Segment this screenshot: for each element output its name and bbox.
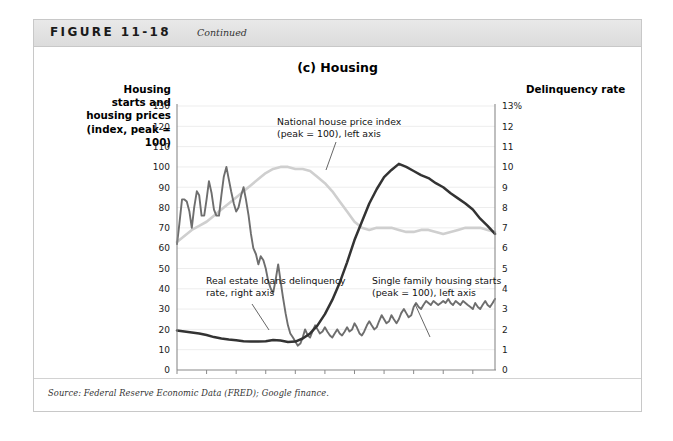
series-layer <box>177 164 495 346</box>
y2-axis-tick-label: 13% <box>502 101 522 111</box>
y-axis-tick-label: 30 <box>159 304 171 314</box>
y2-axis-tick-label: 11 <box>502 142 513 152</box>
series-line <box>177 167 495 242</box>
y2-axis-tick-label: 5 <box>502 264 508 274</box>
figure-card: FIGURE 11-18 Continued (c) Housing Housi… <box>33 19 642 412</box>
y-axis-tick-label: 20 <box>159 325 171 335</box>
annotation-national-house-price-index: National house price index (peak = 100),… <box>277 116 401 139</box>
y-axis-tick-label: 70 <box>159 223 171 233</box>
y2-axis-tick-label: 0 <box>502 365 508 375</box>
y-axis-tick-label: 50 <box>159 264 171 274</box>
y-axis-tick-label: 40 <box>159 284 171 294</box>
y-axis-tick-label: 100 <box>153 162 170 172</box>
annotation-line-2: (peak = 100), left axis <box>277 128 401 140</box>
y2-axis-tick-label: 2 <box>502 325 508 335</box>
y2-axis-tick-label: 10 <box>502 162 514 172</box>
annotation-line-1: National house price index <box>277 116 401 128</box>
y2-axis-tick-label: 9 <box>502 183 508 193</box>
annotation-line-1: Single family housing starts <box>372 275 501 287</box>
y2-axis-tick-label: 12 <box>502 122 513 132</box>
page-root: FIGURE 11-18 Continued (c) Housing Housi… <box>0 0 673 441</box>
annotation-line-1: Real estate loans delinquency <box>206 275 346 287</box>
chart-container: (c) Housing Housing starts and housing p… <box>34 46 641 379</box>
annotation-leader-line <box>252 304 269 330</box>
figure-label: FIGURE 11-18 <box>50 25 171 39</box>
y2-axis-tick-label: 1 <box>502 345 508 355</box>
figure-footer: Source: Federal Reserve Economic Data (F… <box>34 378 641 411</box>
axes-layer <box>177 104 496 374</box>
y-axis-tick-label: 130 <box>153 101 170 111</box>
series-line <box>177 164 495 342</box>
y2-axis-tick-label: 6 <box>502 243 508 253</box>
series-line <box>177 167 495 346</box>
y2-axis-tick-label: 3 <box>502 304 508 314</box>
y-axis-tick-label: 60 <box>159 243 171 253</box>
y2-axis-tick-label: 7 <box>502 223 508 233</box>
figure-source-note: Source: Federal Reserve Economic Data (F… <box>48 388 329 398</box>
annotation-single-family-housing-starts: Single family housing starts (peak = 100… <box>372 275 501 298</box>
figure-continued-label: Continued <box>197 27 247 38</box>
y2-axis-tick-label: 8 <box>502 203 508 213</box>
tick-labels-layer: 130120110100908070605040302010013%121110… <box>153 101 523 379</box>
annotation-line-2: rate, right axis <box>206 287 346 299</box>
y2-axis-tick-label: 4 <box>502 284 508 294</box>
annotation-line-2: (peak = 100), left axis <box>372 287 501 299</box>
y-axis-tick-label: 10 <box>159 345 171 355</box>
y-axis-tick-label: 80 <box>159 203 171 213</box>
annotation-leader-lines <box>252 142 430 337</box>
y-axis-tick-label: 120 <box>153 122 170 132</box>
annotation-delinquency-rate: Real estate loans delinquency rate, righ… <box>206 275 346 298</box>
y-axis-tick-label: 110 <box>153 142 170 152</box>
y-axis-tick-label: 90 <box>159 183 171 193</box>
chart-svg: 130120110100908070605040302010013%121110… <box>34 46 641 379</box>
y-axis-tick-label: 0 <box>164 365 170 375</box>
figure-header: FIGURE 11-18 Continued <box>34 20 641 47</box>
